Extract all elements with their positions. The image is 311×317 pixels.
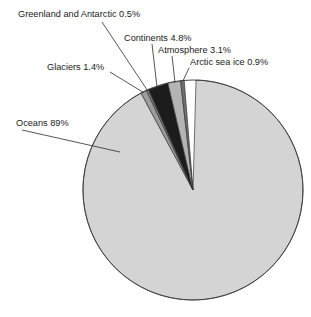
label-glaciers: Glaciers 1.4% (47, 62, 104, 72)
pie-chart-figure: Greenland and Antarctic 0.5% Continents … (0, 0, 311, 317)
label-greenland-antarctic: Greenland and Antarctic 0.5% (18, 9, 140, 19)
label-atmosphere: Atmosphere 3.1% (158, 45, 231, 55)
label-continents: Continents 4.8% (124, 33, 191, 43)
leader-line-arctic (183, 68, 189, 81)
label-oceans: Oceans 89% (16, 118, 69, 128)
pie-chart-canvas: Greenland and Antarctic 0.5% Continents … (0, 0, 311, 317)
leader-line-atmosphere (172, 56, 175, 83)
leader-line-glaciers (110, 72, 144, 93)
leader-line-continents (152, 44, 157, 87)
label-arctic-sea-ice: Arctic sea ice 0.9% (190, 57, 268, 67)
